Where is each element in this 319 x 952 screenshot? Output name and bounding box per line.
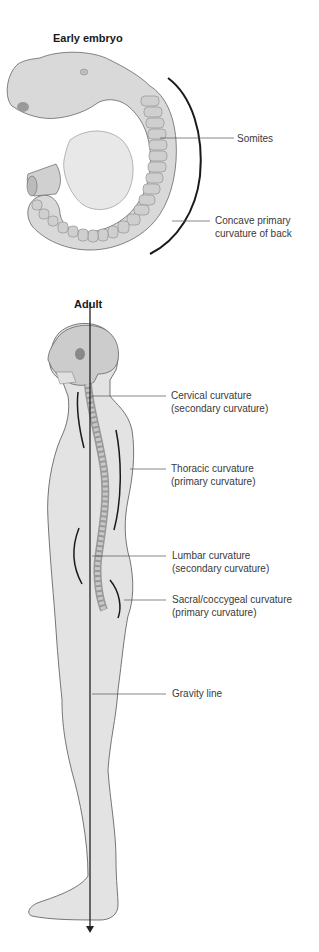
embryo-ear — [80, 69, 88, 75]
label-thoracic-line1: Thoracic curvature — [171, 462, 254, 475]
label-somites: Somites — [237, 132, 273, 145]
label-cervical-line1: Cervical curvature — [171, 389, 252, 402]
label-lumbar-line2: (secondary curvature) — [172, 562, 269, 575]
label-cervical-line2: (secondary curvature) — [171, 402, 268, 415]
label-sacral-line2: (primary curvature) — [172, 606, 256, 619]
embryo-title: Early embryo — [53, 32, 123, 44]
embryo-stalk-cross-section — [27, 176, 37, 196]
skull-orbit — [75, 348, 85, 360]
label-sacral-line1: Sacral/coccygeal curvature — [172, 593, 292, 606]
label-concave-line2: curvature of back — [215, 227, 292, 240]
label-lumbar-line1: Lumbar curvature — [172, 549, 250, 562]
embryo-illustration — [7, 52, 234, 254]
label-gravity-line: Gravity line — [172, 687, 222, 700]
embryo-heart-bulge — [64, 131, 133, 210]
adult-body-outline — [29, 323, 134, 920]
gravity-arrowhead-icon — [86, 926, 94, 933]
label-thoracic-line2: (primary curvature) — [171, 475, 255, 488]
adult-illustration — [29, 303, 166, 933]
adult-title: Adult — [74, 298, 102, 310]
label-concave-line1: Concave primary — [215, 214, 291, 227]
embryo-eye — [17, 102, 29, 112]
